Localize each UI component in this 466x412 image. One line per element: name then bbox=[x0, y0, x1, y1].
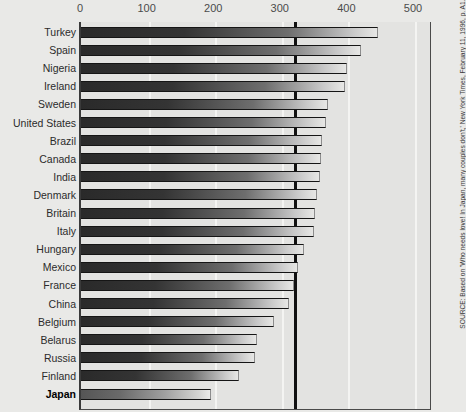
bar-row: Nigeria bbox=[0, 59, 462, 77]
bar-row: Spain bbox=[0, 41, 462, 59]
category-label-hungary: Hungary bbox=[0, 243, 76, 255]
bar-row: Ireland bbox=[0, 77, 462, 95]
category-label-finland: Finland bbox=[0, 370, 76, 382]
bar-ireland bbox=[81, 81, 345, 92]
bar-row: Mexico bbox=[0, 258, 462, 276]
bar-row: Brazil bbox=[0, 132, 462, 150]
bar-row: Denmark bbox=[0, 186, 462, 204]
bar-row: Canada bbox=[0, 150, 462, 168]
bar-row: Sweden bbox=[0, 95, 462, 113]
bar-india bbox=[81, 171, 320, 182]
bar-row: United States bbox=[0, 114, 462, 132]
category-label-india: India bbox=[0, 171, 76, 183]
category-label-russia: Russia bbox=[0, 352, 76, 364]
bar-row: Italy bbox=[0, 222, 462, 240]
category-label-sweden: Sweden bbox=[0, 98, 76, 110]
category-label-britain: Britain bbox=[0, 207, 76, 219]
category-label-italy: Italy bbox=[0, 225, 76, 237]
x-tick-label-100: 100 bbox=[137, 2, 155, 14]
bar-row: Belarus bbox=[0, 331, 462, 349]
bar-russia bbox=[81, 352, 255, 363]
x-tick-label-200: 200 bbox=[204, 2, 222, 14]
x-tick-label-300: 300 bbox=[271, 2, 289, 14]
bar-japan bbox=[81, 389, 211, 400]
bar-sweden bbox=[81, 99, 328, 110]
x-tick-label-400: 400 bbox=[337, 2, 355, 14]
category-label-belarus: Belarus bbox=[0, 334, 76, 346]
category-label-turkey: Turkey bbox=[0, 26, 76, 38]
category-label-spain: Spain bbox=[0, 44, 76, 56]
category-label-canada: Canada bbox=[0, 153, 76, 165]
category-label-japan: Japan bbox=[0, 388, 76, 400]
category-label-nigeria: Nigeria bbox=[0, 62, 76, 74]
bar-rows: TurkeySpainNigeriaIrelandSwedenUnited St… bbox=[0, 22, 462, 410]
bar-turkey bbox=[81, 27, 378, 38]
bar-finland bbox=[81, 370, 239, 381]
bar-mexico bbox=[81, 262, 298, 273]
bar-belgium bbox=[81, 316, 274, 327]
bar-brazil bbox=[81, 135, 322, 146]
bar-canada bbox=[81, 153, 321, 164]
bar-row: China bbox=[0, 295, 462, 313]
bar-france bbox=[81, 280, 294, 291]
bar-row: Finland bbox=[0, 367, 462, 385]
category-label-belgium: Belgium bbox=[0, 316, 76, 328]
bar-row: Hungary bbox=[0, 240, 462, 258]
bar-row: Belgium bbox=[0, 313, 462, 331]
category-label-united-states: United States bbox=[0, 117, 76, 129]
bar-united-states bbox=[81, 117, 326, 128]
bar-belarus bbox=[81, 334, 257, 345]
bar-britain bbox=[81, 208, 315, 219]
bar-row: India bbox=[0, 168, 462, 186]
x-tick-label-500: 500 bbox=[404, 2, 422, 14]
bar-row: Turkey bbox=[0, 23, 462, 41]
category-label-denmark: Denmark bbox=[0, 189, 76, 201]
bar-row: Japan bbox=[0, 385, 462, 403]
category-label-ireland: Ireland bbox=[0, 80, 76, 92]
category-label-mexico: Mexico bbox=[0, 261, 76, 273]
x-axis-tick-labels: 0100200300400500 bbox=[0, 2, 462, 20]
bar-row: Russia bbox=[0, 349, 462, 367]
bar-nigeria bbox=[81, 63, 347, 74]
category-label-brazil: Brazil bbox=[0, 135, 76, 147]
bar-italy bbox=[81, 226, 314, 237]
bar-row: Britain bbox=[0, 204, 462, 222]
x-tick-label-0: 0 bbox=[77, 2, 83, 14]
source-note-container: SOURCE: Based on 'Who needs love! In Jap… bbox=[432, 0, 462, 412]
bar-china bbox=[81, 298, 289, 309]
bar-hungary bbox=[81, 244, 304, 255]
bar-denmark bbox=[81, 189, 317, 200]
bar-spain bbox=[81, 45, 361, 56]
source-note: SOURCE: Based on 'Who needs love! In Jap… bbox=[459, 0, 466, 400]
category-label-china: China bbox=[0, 298, 76, 310]
bar-row: France bbox=[0, 276, 462, 294]
category-label-france: France bbox=[0, 279, 76, 291]
